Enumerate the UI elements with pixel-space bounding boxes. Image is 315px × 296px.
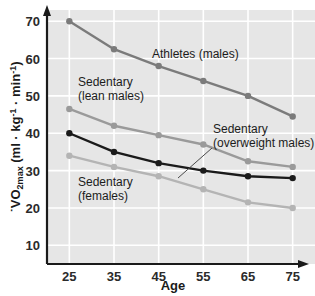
series-label-line: Athletes (males) [152,47,239,61]
series-label-line: (overweight males) [213,136,314,150]
data-point-sedentary-lean-males-55 [200,141,206,147]
y-tick-label-40: 40 [26,126,40,141]
data-point-sedentary-overweight-males-45 [155,160,161,166]
data-point-sedentary-lean-males-65 [245,158,251,164]
data-point-athletes-males-75 [289,113,295,119]
data-point-sedentary-females-55 [200,186,206,192]
data-point-sedentary-overweight-males-75 [289,175,295,181]
y-axis-title: ˙VO2max (ml · kg-1 · min-1) [8,61,25,212]
data-point-sedentary-females-25 [66,152,72,158]
y-tick-label-60: 60 [26,52,40,67]
x-axis-title-group: Age [161,278,186,293]
x-tick-label-65: 65 [241,269,255,284]
y-tick-label-10: 10 [26,238,40,253]
x-tick-label-75: 75 [285,269,299,284]
series-label-line: Sedentary [78,75,133,89]
data-point-athletes-males-25 [66,18,72,24]
series-label-line: (females) [78,189,128,203]
data-point-athletes-males-45 [155,63,161,69]
series-label-line: Sedentary [213,122,268,136]
x-tick-label-35: 35 [107,269,121,284]
data-point-sedentary-females-45 [155,173,161,179]
x-tick-label-55: 55 [196,269,210,284]
y-tick-label-70: 70 [26,14,40,29]
data-point-sedentary-females-65 [245,199,251,205]
y-axis-title-group: ˙VO2max (ml · kg-1 · min-1) [8,61,25,212]
data-point-sedentary-lean-males-75 [289,164,295,170]
data-point-sedentary-females-35 [111,164,117,170]
y-tick-label-50: 50 [26,89,40,104]
data-point-sedentary-lean-males-45 [155,132,161,138]
data-point-athletes-males-65 [245,93,251,99]
series-label-athletes: Athletes (males) [152,47,239,61]
vo2max-line-chart: Athletes (males)Sedentary(lean males)Sed… [0,0,315,296]
data-point-athletes-males-55 [200,78,206,84]
series-label-females: Sedentary(females) [78,175,133,203]
data-point-sedentary-lean-males-25 [66,106,72,112]
y-tick-label-20: 20 [26,201,40,216]
data-point-sedentary-overweight-males-25 [66,130,72,136]
x-tick-label-25: 25 [62,269,76,284]
chart-figure: Athletes (males)Sedentary(lean males)Sed… [0,0,315,296]
data-point-sedentary-females-75 [289,205,295,211]
y-tick-label-30: 30 [26,164,40,179]
data-point-athletes-males-35 [111,46,117,52]
data-point-sedentary-lean-males-35 [111,123,117,129]
data-point-sedentary-overweight-males-55 [200,167,206,173]
x-axis-title: Age [161,278,186,293]
data-point-sedentary-overweight-males-65 [245,173,251,179]
series-label-line: Sedentary [78,175,133,189]
series-label-line: (lean males) [78,89,144,103]
data-point-sedentary-overweight-males-35 [111,149,117,155]
